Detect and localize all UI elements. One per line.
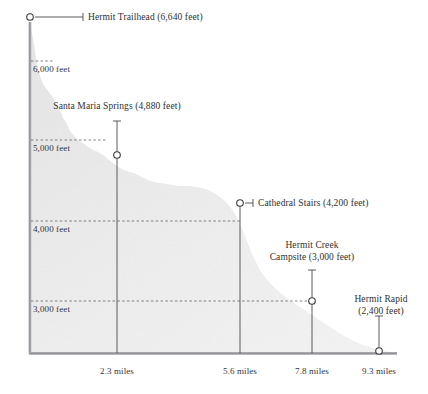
marker-hermit-trailhead — [27, 14, 34, 21]
x-tick-label-7-8-miles: 7.8 miles — [295, 366, 329, 376]
point-label-hermit-creek-campsite: Hermit Creek Campsite (3,000 feet) — [270, 239, 355, 263]
x-tick-label-2-3-miles: 2.3 miles — [100, 366, 134, 376]
elevation-profile-chart: 6,000 feet 5,000 feet 4,000 feet 3,000 f… — [0, 0, 428, 394]
y-gridline-label-3000: 3,000 feet — [33, 304, 70, 314]
y-gridline-label-4000: 4,000 feet — [33, 224, 70, 234]
point-label-hermit-rapid-line1: Hermit Rapid — [354, 293, 407, 305]
marker-santa-maria-springs — [114, 152, 121, 159]
terrain-silhouette — [30, 24, 396, 353]
marker-cathedral-stairs — [237, 200, 244, 207]
y-gridline-label-5000: 5,000 feet — [33, 143, 70, 153]
point-label-hermit-trailhead: Hermit Trailhead (6,640 feet) — [88, 11, 203, 23]
y-gridline-label-6000: 6,000 feet — [33, 64, 70, 74]
x-axis-line — [29, 352, 397, 355]
point-label-hermit-rapid-line2: (2,400 feet) — [354, 305, 407, 317]
point-label-hermit-creek-campsite-line2: Campsite (3,000 feet) — [270, 251, 355, 263]
marker-hermit-rapid — [376, 348, 383, 355]
point-label-hermit-rapid: Hermit Rapid (2,400 feet) — [354, 293, 407, 317]
point-label-cathedral-stairs: Cathedral Stairs (4,200 feet) — [258, 197, 369, 209]
point-label-hermit-creek-campsite-line1: Hermit Creek — [270, 239, 355, 251]
x-tick-label-9-3-miles: 9.3 miles — [362, 366, 396, 376]
y-axis-line — [29, 22, 32, 354]
x-tick-label-5-6-miles: 5.6 miles — [223, 366, 257, 376]
point-label-santa-maria-springs: Santa Maria Springs (4,880 feet) — [53, 100, 180, 112]
marker-hermit-creek-campsite — [309, 298, 316, 305]
